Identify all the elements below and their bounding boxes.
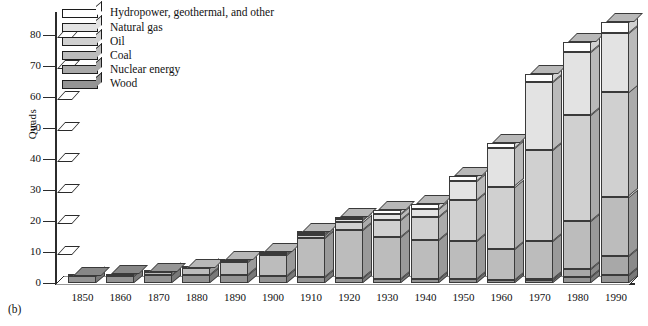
bar-segment-wood [373,279,401,283]
bar-segment-hydropower [373,210,401,214]
bar-1990 [601,22,629,283]
bar-segment-coal [259,255,287,276]
x-tick-label: 1950 [445,292,482,303]
bar-segment-side [629,85,638,197]
bar-segment-wood [297,277,325,283]
bar-segment-side [591,108,600,222]
bar-segment-natural-gas [449,181,477,200]
bar-1960 [487,143,515,283]
bar-1880 [182,268,210,284]
x-tick-label: 1910 [293,292,330,303]
bar-segment-side [553,75,562,150]
x-tick-label: 1860 [102,292,139,303]
x-tick-label: 1980 [559,292,596,303]
bar-1900 [259,252,287,283]
bar-segment-side [591,45,600,116]
bar-segment-wood [68,276,96,283]
bar-segment-wood [335,278,363,283]
bar-segment-natural-gas [525,82,553,150]
bar-segment-coal [525,241,553,279]
bar-1980 [563,42,591,283]
bar-segment-side [515,179,524,248]
bar-segment-oil [601,92,629,196]
bar-segment-wood [259,276,287,283]
bar-segment-coal [487,249,515,280]
x-tick-label: 1890 [216,292,253,303]
bar-segment-oil [335,222,363,230]
bar-segment-hydropower [601,22,629,33]
bar-segment-oil [411,217,439,240]
x-tick-label: 1920 [331,292,368,303]
bar-segment-natural-gas [601,33,629,93]
x-tick-label: 1970 [521,292,558,303]
bar-segment-wood [525,280,553,283]
bar-segment-nuclear-energy [563,269,591,277]
bar-segment-coal [297,238,325,277]
bar-segment-wood [601,275,629,283]
bar-segment-hydropower [563,42,591,52]
bar-segment-side [363,222,372,278]
x-tick-label: 1960 [483,292,520,303]
plot-area: 1850186018701880189019001910192019301940… [0,0,648,326]
bar-segment-coal [220,262,248,275]
bar-segment-hydropower [525,74,553,82]
bar-segment-wood [144,275,172,283]
bar-1930 [373,210,401,283]
bar-segment-side [477,192,486,241]
bar-segment-natural-gas [563,52,591,115]
bar-segment-wood [563,277,591,283]
x-tick-label: 1850 [64,292,101,303]
x-tick-label: 1990 [597,292,634,303]
bar-1850 [68,276,96,283]
bar-segment-side [401,229,410,279]
bar-segment-oil [297,235,325,238]
bar-segment-wood [182,275,210,283]
bar-segment-natural-gas [335,219,363,221]
bar-1920 [335,217,363,283]
figure-caption: (b) [8,303,21,315]
x-tick-label: 1900 [255,292,292,303]
x-tick-label: 1940 [407,292,444,303]
bar-segment-coal [182,268,210,275]
bar-segment-nuclear-energy [601,256,629,275]
bar-segment-coal [335,230,363,278]
bar-segment-side [553,142,562,241]
bar-segment-side [629,25,638,92]
bar-segment-side [477,234,486,280]
bar-1870 [144,272,172,283]
bar-segment-wood [220,275,248,283]
bar-segment-side [591,214,600,269]
bar-segment-coal [601,197,629,256]
bar-segment-natural-gas [373,214,401,220]
bar-segment-wood [106,276,134,283]
bar-segment-hydropower [411,204,439,209]
bar-segment-natural-gas [487,148,515,186]
x-tick-label: 1930 [369,292,406,303]
bar-segment-coal [144,272,172,275]
bar-segment-oil [525,150,553,241]
bar-segment-oil [487,187,515,249]
bar-segment-side [439,233,448,279]
energy-consumption-figure: Quads 01020304050607080 Hydropower, geot… [0,0,648,326]
bar-segment-hydropower [335,217,363,219]
bar-segment-hydropower [487,143,515,148]
bar-segment-oil [563,115,591,221]
bar-segment-coal [373,237,401,279]
bar-segment-oil [373,220,401,237]
bar-segment-wood [449,279,477,283]
bar-1910 [297,232,325,283]
bar-segment-hydropower [449,176,477,181]
bar-1890 [220,260,248,283]
bar-segment-coal [449,241,477,279]
bar-segment-coal [563,221,591,269]
bar-1950 [449,176,477,283]
bar-1970 [525,74,553,283]
bar-segment-side [629,189,638,256]
bar-segment-wood [487,280,515,283]
bar-segment-coal [411,240,439,279]
bar-segment-oil [449,200,477,241]
bar-segment-natural-gas [411,209,439,217]
bar-segment-wood [411,279,439,283]
x-tick-label: 1880 [178,292,215,303]
bar-1860 [106,274,134,283]
